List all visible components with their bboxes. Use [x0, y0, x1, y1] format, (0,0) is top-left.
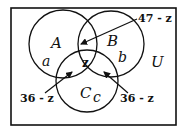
- center-z-label: z: [82, 56, 89, 70]
- set-a-label: A: [49, 34, 62, 52]
- venn-diagram: A B C U a b c z 47 - z 36 - z 36 - z: [0, 0, 186, 133]
- set-c-label: C: [80, 84, 92, 102]
- region-b-label: b: [118, 49, 127, 65]
- universe-label: U: [151, 53, 165, 71]
- set-b-label: B: [106, 32, 118, 50]
- annotation-ab: 47 - z: [138, 12, 172, 25]
- region-c-label: c: [93, 89, 101, 105]
- annotation-bc: 36 - z: [120, 92, 154, 105]
- region-a-label: a: [42, 53, 50, 69]
- annotation-ac: 36 - z: [20, 92, 54, 105]
